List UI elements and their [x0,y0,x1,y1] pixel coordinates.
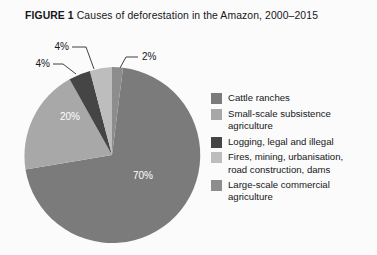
legend-swatch-icon [211,137,222,148]
figure-container: FIGURE 1 Causes of deforestation in the … [0,0,377,255]
pie-label-logging: 4% [36,58,51,69]
legend-swatch-icon [211,109,222,120]
legend-swatch-icon [211,93,222,104]
leader-line-fires [72,47,94,69]
legend-item-logging: Logging, legal and illegal [211,136,375,148]
legend-swatch-icon [211,180,222,191]
legend-item-large-scale-commercial-agriculture: Large-scale commercial agriculture [211,179,375,203]
pie-label-large-scale: 2% [142,51,157,62]
pie-label-cattle-ranches: 70% [133,170,153,181]
legend-item-fires-mining-urbanisation: Fires, mining, urbanisation, road constr… [211,151,375,175]
legend-item-cattle-ranches: Cattle ranches [211,92,375,104]
pie-label-small-scale-subsistence-agriculture: 20% [60,111,80,122]
legend-label: Small-scale subsistence agriculture [228,108,331,132]
leader-line-logging [53,64,76,74]
pie-chart: 70% 20% 4% 4% 2% [8,38,208,250]
pie-chart-svg: 70% 20% 4% 4% 2% [8,38,208,250]
legend-label: Cattle ranches [228,92,290,104]
legend-label: Fires, mining, urbanisation, road constr… [228,151,343,175]
figure-number: FIGURE 1 [25,10,74,21]
legend-item-small-scale-subsistence-agriculture: Small-scale subsistence agriculture [211,108,375,132]
legend-swatch-icon [211,152,222,163]
pie-label-fires: 4% [55,41,70,52]
legend-label: Large-scale commercial agriculture [228,179,330,203]
leader-line-large-scale [120,57,138,68]
legend-label: Logging, legal and illegal [228,136,334,148]
figure-title: FIGURE 1 Causes of deforestation in the … [25,9,355,23]
chart-legend: Cattle ranches Small-scale subsistence a… [211,92,375,207]
page-title: Causes of deforestation in the Amazon, 2… [77,10,318,21]
